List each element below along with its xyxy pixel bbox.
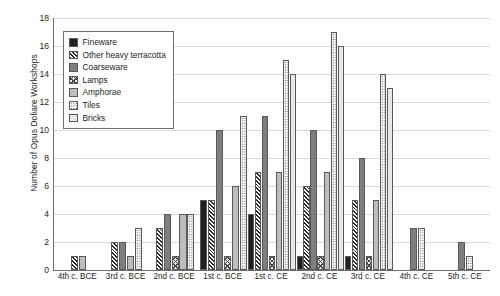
bar-bricks xyxy=(338,46,344,270)
bar-amphorae xyxy=(232,186,239,270)
y-tick-label: 6 xyxy=(44,181,49,191)
y-tick-label: 10 xyxy=(39,125,49,135)
bar-coarseware xyxy=(262,116,268,270)
bar-lamps xyxy=(269,256,275,270)
bar-chart: Number of Opus Doliare Workshops 0246810… xyxy=(0,0,500,296)
bar-fineware xyxy=(248,214,254,270)
bar-tiles xyxy=(466,256,473,270)
y-tick-label: 18 xyxy=(39,13,49,23)
y-axis-title: Number of Opus Doliare Workshops xyxy=(29,23,39,223)
x-tick-label: 1st c. BCE xyxy=(203,272,242,281)
x-tick-label: 4th c. BCE xyxy=(58,272,97,281)
bar-other-heavy-terracotta xyxy=(352,200,358,270)
bar-other-heavy-terracotta xyxy=(71,256,78,270)
y-tick-label: 14 xyxy=(39,69,49,79)
bar-coarseware xyxy=(458,242,465,270)
bar-tiles xyxy=(187,214,194,270)
bar-tiles xyxy=(380,74,386,270)
y-tick-label: 2 xyxy=(44,237,49,247)
bar-coarseware xyxy=(164,214,171,270)
bar-coarseware xyxy=(119,242,126,270)
legend-item-other-heavy-terracotta[interactable]: Other heavy terracotta xyxy=(69,49,166,62)
x-tick-label: 2nd c. CE xyxy=(301,272,337,281)
x-tick-label: 5th c. CE xyxy=(448,272,482,281)
legend-item-bricks[interactable]: Bricks xyxy=(69,112,166,125)
bar-group xyxy=(442,18,490,270)
y-tick-label: 4 xyxy=(44,209,49,219)
bar-tiles xyxy=(135,228,142,270)
x-axis-labels: 4th c. BCE3rd c. BCE2nd c. BCE1st c. BCE… xyxy=(53,272,489,292)
bar-coarseware xyxy=(410,228,417,270)
bar-other-heavy-terracotta xyxy=(303,186,309,270)
legend-swatch-icon xyxy=(69,101,78,110)
chart-legend: FinewareOther heavy terracottaCoarseware… xyxy=(63,31,174,129)
x-tick-label: 4th c. CE xyxy=(399,272,433,281)
legend-item-fineware[interactable]: Fineware xyxy=(69,36,166,49)
bar-bricks xyxy=(387,88,393,270)
legend-swatch-icon xyxy=(69,88,78,97)
bar-amphorae xyxy=(127,256,134,270)
legend-swatch-icon xyxy=(69,38,78,47)
x-tick-label: 2nd c. BCE xyxy=(153,272,194,281)
bar-other-heavy-terracotta xyxy=(156,228,163,270)
bar-fineware xyxy=(297,256,303,270)
bar-lamps xyxy=(172,256,179,270)
bar-coarseware xyxy=(359,158,365,270)
bar-group xyxy=(393,18,441,270)
x-tick-label: 3rd c. BCE xyxy=(106,272,146,281)
y-tick-label: 0 xyxy=(44,265,49,275)
bar-tiles xyxy=(283,60,289,270)
legend-item-label: Fineware xyxy=(83,38,117,46)
bar-group xyxy=(199,18,247,270)
legend-item-coarseware[interactable]: Coarseware xyxy=(69,61,166,74)
legend-item-lamps[interactable]: Lamps xyxy=(69,74,166,87)
bar-lamps xyxy=(224,256,231,270)
legend-swatch-icon xyxy=(69,114,78,123)
bar-tiles xyxy=(418,228,425,270)
bar-amphorae xyxy=(276,172,282,270)
bar-lamps xyxy=(317,256,323,270)
legend-item-label: Bricks xyxy=(83,114,106,122)
bar-other-heavy-terracotta xyxy=(111,242,118,270)
bar-other-heavy-terracotta xyxy=(255,172,261,270)
bar-group xyxy=(248,18,296,270)
legend-swatch-icon xyxy=(69,76,78,85)
bar-lamps xyxy=(366,256,372,270)
bar-tiles xyxy=(240,116,247,270)
bar-fineware xyxy=(200,200,207,270)
bar-amphorae xyxy=(179,214,186,270)
bar-other-heavy-terracotta xyxy=(208,200,215,270)
bar-amphorae xyxy=(79,256,86,270)
bar-amphorae xyxy=(373,200,379,270)
bar-group xyxy=(296,18,344,270)
bar-fineware xyxy=(345,256,351,270)
bar-coarseware xyxy=(310,130,316,270)
y-tick-label: 12 xyxy=(39,97,49,107)
legend-item-amphorae[interactable]: Amphorae xyxy=(69,86,166,99)
bar-coarseware xyxy=(216,130,223,270)
legend-item-label: Coarseware xyxy=(83,63,128,71)
bar-amphorae xyxy=(324,172,330,270)
y-tick-label: 8 xyxy=(44,153,49,163)
legend-swatch-icon xyxy=(69,63,78,72)
y-tick-label: 16 xyxy=(39,41,49,51)
legend-item-label: Tiles xyxy=(83,101,100,109)
bar-tiles xyxy=(331,32,337,270)
legend-swatch-icon xyxy=(69,51,78,60)
x-tick-label: 1st c. CE xyxy=(254,272,287,281)
bar-bricks xyxy=(290,74,296,270)
x-tick-label: 3rd c. CE xyxy=(351,272,385,281)
legend-item-tiles[interactable]: Tiles xyxy=(69,99,166,112)
legend-item-label: Other heavy terracotta xyxy=(83,51,166,59)
legend-item-label: Amphorae xyxy=(83,88,122,96)
legend-item-label: Lamps xyxy=(83,76,108,84)
bar-group xyxy=(345,18,393,270)
